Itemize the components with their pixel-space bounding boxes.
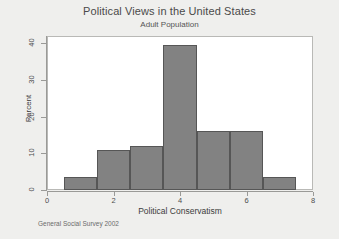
histogram-bar [263, 177, 296, 190]
histogram-bar [230, 131, 263, 190]
x-axis-title: Political Conservatism [47, 206, 313, 216]
histogram-bar [97, 150, 130, 190]
histogram-bar [64, 177, 97, 190]
x-axis-tick-label: 0 [40, 196, 54, 205]
histogram-bar [163, 45, 196, 190]
y-axis-tick-label: 0 [27, 182, 36, 198]
x-axis-tick-label: 2 [107, 196, 121, 205]
y-axis-tick [41, 117, 46, 118]
y-axis-tick [41, 80, 46, 81]
histogram-bar [130, 146, 163, 190]
y-axis-tick-label: 10 [27, 145, 36, 161]
x-axis-tick-label: 8 [306, 196, 320, 205]
y-axis-tick-label: 40 [27, 35, 36, 51]
histogram-bar [197, 131, 230, 190]
x-axis-tick-label: 4 [173, 196, 187, 205]
plot-area [47, 36, 313, 190]
y-axis-tick [41, 190, 46, 191]
y-axis-line [46, 36, 47, 191]
y-axis-tick-label: 30 [27, 72, 36, 88]
y-axis-tick [41, 43, 46, 44]
chart-figure: Political Views in the United States Adu… [0, 0, 339, 239]
chart-title: Political Views in the United States [0, 5, 339, 17]
chart-subtitle: Adult Population [0, 20, 339, 29]
chart-footnote: General Social Survey 2002 [38, 220, 119, 227]
y-axis-title: Percent [24, 89, 33, 129]
y-axis-tick [41, 153, 46, 154]
x-axis-tick-label: 6 [240, 196, 254, 205]
